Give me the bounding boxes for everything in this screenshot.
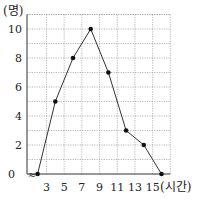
x-tick-label: 9: [96, 181, 103, 194]
y-axis-label: (명): [3, 4, 23, 18]
x-tick-label: 15: [146, 181, 160, 194]
x-tick-label: 13: [128, 181, 142, 194]
x-tick-label: 5: [61, 181, 68, 194]
x-tick-label: 7: [78, 181, 85, 194]
data-point-marker: [124, 128, 129, 133]
axes: [27, 15, 170, 175]
chart-canvas: 2468103579111315 (명) (시간) 0 ≈: [0, 0, 197, 200]
origin-label: 0: [8, 168, 15, 181]
axis-break-symbol: ≈: [28, 169, 36, 180]
x-tick-label: 3: [43, 181, 50, 194]
data-point-marker: [53, 99, 58, 104]
data-point-marker: [71, 56, 76, 61]
line-chart: 2468103579111315 (명) (시간) 0 ≈: [0, 0, 197, 200]
y-tick-label: 4: [15, 110, 22, 123]
data-point-marker: [88, 27, 93, 32]
y-tick-label: 10: [8, 23, 22, 36]
x-axis-label: (시간): [160, 180, 191, 194]
y-tick-label: 6: [15, 81, 22, 94]
data-point-marker: [142, 143, 147, 148]
x-tick-label: 11: [110, 181, 124, 194]
data-point-marker: [159, 172, 164, 177]
y-tick-label: 8: [15, 52, 22, 65]
grid-lines: [27, 15, 170, 175]
data-point-marker: [106, 70, 111, 75]
y-tick-label: 2: [15, 139, 22, 152]
